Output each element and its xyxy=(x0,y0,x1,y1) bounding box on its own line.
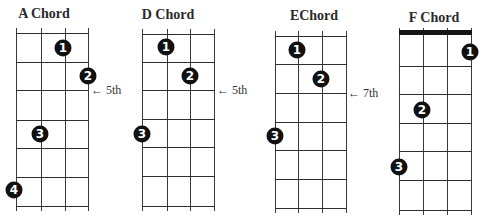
finger-dot-4: 4 xyxy=(6,182,23,199)
fret-position-marker: ← 7th xyxy=(348,86,378,101)
string-line xyxy=(142,29,143,211)
fret-line xyxy=(16,33,89,34)
string-line xyxy=(423,28,424,215)
chord-achord: A Chord1234← 5th xyxy=(0,0,486,218)
fret-line xyxy=(275,36,347,37)
fret-line xyxy=(399,151,472,152)
fret-line xyxy=(16,206,89,207)
finger-dot-3: 3 xyxy=(391,159,408,176)
finger-dot-2: 2 xyxy=(80,68,97,85)
string-line xyxy=(214,29,215,211)
chord-title: F Chord xyxy=(409,10,459,26)
finger-dot-3: 3 xyxy=(134,126,151,143)
string-line xyxy=(399,28,400,215)
finger-dot-1: 1 xyxy=(462,44,479,61)
fret-line xyxy=(142,119,215,120)
finger-dot-2: 2 xyxy=(414,102,431,119)
fret-line xyxy=(142,34,215,35)
fret-line xyxy=(275,179,347,180)
fret-line xyxy=(142,90,215,91)
string-line xyxy=(16,28,17,211)
fret-line xyxy=(16,120,89,121)
fret-line xyxy=(399,66,472,67)
chord-echord: EChord123← 7th xyxy=(0,0,486,218)
fret-line xyxy=(16,90,89,91)
fret-line xyxy=(399,123,472,124)
fret-line xyxy=(16,148,89,149)
string-line xyxy=(167,29,168,211)
fret-line xyxy=(399,210,472,211)
fret-line xyxy=(275,208,347,209)
string-line xyxy=(447,28,448,215)
fret-line xyxy=(16,177,89,178)
fret-line xyxy=(399,33,472,34)
finger-dot-3: 3 xyxy=(32,126,49,143)
string-line xyxy=(65,28,66,211)
string-line xyxy=(41,28,42,211)
fret-line xyxy=(275,150,347,151)
string-line xyxy=(88,28,89,211)
fret-line xyxy=(275,122,347,123)
fret-position-marker: ← 5th xyxy=(91,83,121,98)
chord-title: D Chord xyxy=(142,7,195,23)
fret-position-marker: ← 5th xyxy=(217,83,247,98)
string-line xyxy=(471,28,472,215)
fret-line xyxy=(142,147,215,148)
nut-bar xyxy=(399,30,472,35)
string-line xyxy=(275,31,276,213)
string-line xyxy=(298,31,299,213)
finger-dot-1: 1 xyxy=(55,40,72,57)
fret-line xyxy=(275,93,347,94)
string-line xyxy=(346,31,347,213)
fret-line xyxy=(142,206,215,207)
finger-dot-3: 3 xyxy=(267,128,284,145)
fret-line xyxy=(399,180,472,181)
chord-dchord: D Chord123← 5th xyxy=(0,0,486,218)
chord-title: EChord xyxy=(290,8,338,24)
chord-title: A Chord xyxy=(18,6,70,22)
finger-dot-2: 2 xyxy=(182,68,199,85)
finger-dot-1: 1 xyxy=(158,39,175,56)
finger-dot-1: 1 xyxy=(289,42,306,59)
fret-line xyxy=(275,64,347,65)
fret-line xyxy=(142,176,215,177)
chord-fchord: F Chord123 xyxy=(0,0,486,218)
fret-line xyxy=(142,62,215,63)
string-line xyxy=(190,29,191,211)
fret-line xyxy=(16,62,89,63)
fret-line xyxy=(399,94,472,95)
finger-dot-2: 2 xyxy=(313,71,330,88)
string-line xyxy=(322,31,323,213)
